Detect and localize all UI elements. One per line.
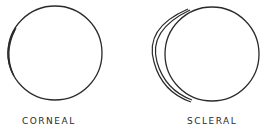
scleral-label: SCLERAL: [187, 116, 237, 126]
scleral-lens-shell-1: [155, 10, 192, 100]
corneal-label: CORNEAL: [22, 116, 76, 126]
corneal-panel: [8, 6, 102, 100]
scleral-panel: [152, 7, 259, 102]
scleral-eyeball: [165, 7, 259, 101]
corneal-eyeball: [8, 6, 102, 100]
lens-diagram: [0, 0, 261, 135]
